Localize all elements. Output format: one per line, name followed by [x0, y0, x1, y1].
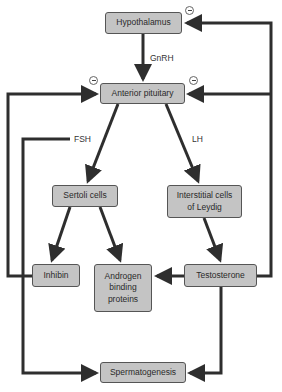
inhibin-node: Inhibin	[32, 264, 80, 287]
androgen-binding-proteins-node: Androgen binding proteins	[94, 264, 152, 312]
sertoli-cells-node: Sertoli cells	[52, 185, 118, 207]
fsh-spermatogenesis-line	[23, 139, 96, 373]
sertoli-abp-arrow	[100, 207, 120, 260]
anterior-pituitary-node: Anterior pituitary	[100, 83, 185, 104]
lh-label: LH	[192, 134, 203, 144]
testosterone-label: Testosterone	[196, 270, 245, 281]
testosterone-node: Testosterone	[184, 264, 257, 287]
fsh-arrow	[88, 104, 118, 181]
minus-icon	[185, 6, 194, 15]
sertoli-cells-label: Sertoli cells	[63, 190, 106, 201]
fsh-label: FSH	[74, 134, 91, 144]
gnrh-label: GnRH	[150, 53, 174, 63]
leydig-cells-label: Interstitial cells of Leydig	[176, 190, 233, 212]
testosterone-feedback-line	[187, 23, 271, 276]
anterior-pituitary-label: Anterior pituitary	[112, 88, 174, 99]
spermatogenesis-label: Spermatogenesis	[110, 367, 176, 378]
minus-icon	[189, 76, 198, 85]
testosterone-spermatogenesis-line	[190, 287, 221, 373]
androgen-binding-proteins-label: Androgen binding proteins	[101, 271, 145, 304]
inhibin-label: Inhibin	[43, 270, 68, 281]
hypothalamus-label: Hypothalamus	[116, 17, 170, 28]
minus-icon	[89, 76, 98, 85]
spermatogenesis-node: Spermatogenesis	[100, 362, 186, 383]
hypothalamus-node: Hypothalamus	[105, 12, 182, 34]
leydig-testosterone-arrow	[204, 218, 220, 260]
leydig-cells-node: Interstitial cells of Leydig	[167, 185, 242, 218]
sertoli-inhibin-arrow	[52, 207, 70, 260]
